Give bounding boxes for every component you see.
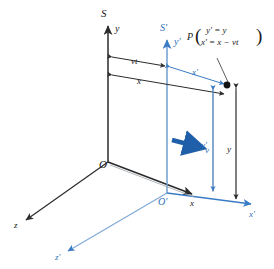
label-point-p-name: P <box>186 31 193 42</box>
axis-z-prime <box>68 193 167 251</box>
base-plane-edge <box>110 165 194 197</box>
label-axis-x-prime: x′ <box>248 209 256 219</box>
label-frame-s: S <box>101 7 107 19</box>
label-dimension-vt: vt <box>131 56 138 66</box>
point-p-marker <box>224 82 231 89</box>
label-point-eq-bottom-lhs: x′ <box>200 37 208 47</box>
base-edge-lower <box>110 165 194 197</box>
label-axis-z: z <box>13 220 18 230</box>
velocity-arrow-shaft <box>172 140 203 148</box>
label-dimension-y: y <box>226 144 231 154</box>
label-origin-s-prime: O′ <box>158 196 168 207</box>
dimension-x-arrow <box>112 75 224 94</box>
dimension-vt-arrow <box>112 57 165 66</box>
label-axis-y: y <box>114 23 120 34</box>
velocity-arrow <box>172 140 203 148</box>
axis-x <box>108 162 192 194</box>
label-frame-s-prime: S′ <box>160 22 168 33</box>
label-axis-x: x <box>189 198 194 208</box>
point-p-expression: P ( y′ = y x′ = x − vt ) <box>186 25 262 47</box>
label-axis-z-prime: z′ <box>54 252 62 262</box>
label-axis-y-prime: y′ <box>173 36 181 47</box>
paren-close: ) <box>256 25 262 47</box>
label-dimension-y-prime: y′ <box>200 140 208 150</box>
label-point-eq-bottom-rhs: = x − vt <box>209 37 239 47</box>
physics-diagram-galilean-transformation: S y S′ y′ O O′ x x′ z z′ v vt x x′ y′ y … <box>0 0 274 269</box>
axis-x-prime <box>167 193 251 204</box>
diagram-canvas: S y S′ y′ O O′ x x′ z z′ v vt x x′ y′ y … <box>0 0 274 269</box>
leader-line-point-p <box>217 58 228 82</box>
label-origin-s: O <box>99 158 107 170</box>
label-dimension-x: x <box>136 76 141 86</box>
label-dimension-x-prime: x′ <box>191 67 199 77</box>
axis-z <box>26 162 108 220</box>
projection-lines <box>213 86 236 198</box>
dimension-vt <box>112 57 165 66</box>
dimension-x <box>112 75 224 94</box>
label-point-eq-top: y′ = y <box>205 25 227 35</box>
